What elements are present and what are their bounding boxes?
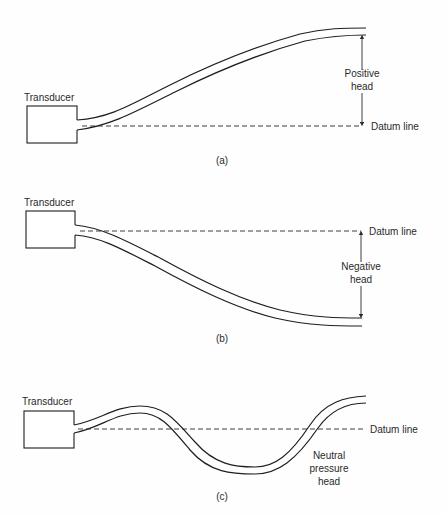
head-label-line2: head xyxy=(350,274,372,285)
head-label-line1: Negative xyxy=(341,261,381,272)
head-label-line2: head xyxy=(351,81,373,92)
datum-label: Datum line xyxy=(370,424,418,435)
transducer-label: Transducer xyxy=(22,396,73,407)
head-label-line3: head xyxy=(318,476,340,487)
datum-label: Datum line xyxy=(371,121,419,132)
caption-b: (b) xyxy=(216,333,228,344)
transducer-label: Transducer xyxy=(24,92,75,103)
panel-c: Transducer Datum line Neutral pressure h… xyxy=(22,396,418,502)
tube-upper-wall xyxy=(77,28,366,120)
panel-b: Transducer Datum line Negative head (b) xyxy=(24,197,417,344)
tube-upper-wall xyxy=(75,225,362,318)
transducer-box xyxy=(26,211,75,248)
head-label-line2: pressure xyxy=(310,463,349,474)
head-label-line1: Positive xyxy=(344,68,379,79)
pressure-head-diagram: Transducer Datum line Positive head (a) … xyxy=(0,0,446,515)
head-label-line1: Neutral xyxy=(313,450,345,461)
tube-lower-wall xyxy=(77,35,366,130)
panel-a: Transducer Datum line Positive head (a) xyxy=(24,28,419,166)
datum-label: Datum line xyxy=(369,226,417,237)
caption-c: (c) xyxy=(216,491,228,502)
tube-lower-wall xyxy=(75,235,362,326)
transducer-box xyxy=(27,106,77,143)
caption-a: (a) xyxy=(216,155,228,166)
transducer-label: Transducer xyxy=(24,197,75,208)
transducer-box xyxy=(24,411,74,448)
